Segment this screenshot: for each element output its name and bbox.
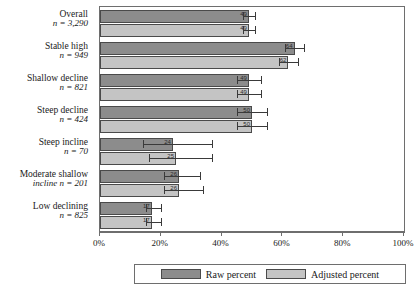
error-bar-cap-high (161, 218, 162, 226)
error-bar-cap-high (200, 172, 201, 180)
error-bar-line (243, 30, 255, 31)
legend-label: Adjusted percent (311, 269, 379, 280)
error-bar-cap-low (164, 186, 165, 194)
error-bar-line (164, 190, 204, 191)
category-label-n: n = 825 (0, 211, 88, 220)
category-label-n: n = 70 (0, 147, 88, 156)
x-axis-tick-label: 40% (212, 238, 229, 248)
error-bar-cap-low (285, 44, 286, 52)
legend-item: Adjusted percent (266, 269, 379, 280)
bar-row: 17 (100, 216, 404, 229)
error-bar-line (146, 208, 161, 209)
error-bar-cap-high (161, 204, 162, 212)
error-bar-cap-high (261, 90, 262, 98)
x-axis-tick-label: 0% (93, 238, 105, 248)
error-bar-cap-high (304, 44, 305, 52)
bar-row: 62 (100, 56, 404, 69)
error-bar-cap-low (237, 122, 238, 130)
error-bar-cap-high (267, 108, 268, 116)
error-bar-cap-high (255, 26, 256, 34)
error-bar-cap-low (149, 154, 150, 162)
bar-row: 64 (100, 42, 404, 55)
category-axis-labels: Overalln = 3,290Stable highn = 949Shallo… (0, 6, 94, 232)
bar-raw-percent (100, 10, 249, 23)
error-bar-cap-high (255, 12, 256, 20)
category-label-n: n = 3,290 (0, 19, 88, 28)
bar-row: 17 (100, 202, 404, 215)
error-bar-cap-low (237, 108, 238, 116)
error-bar-line (146, 222, 161, 223)
bar-row: 25 (100, 152, 404, 165)
plot-area: 4949646249495050242526261717 (99, 6, 405, 232)
error-bar-cap-low (146, 218, 147, 226)
bar-row: 24 (100, 138, 404, 151)
error-bar-line (237, 80, 261, 81)
bar-row: 26 (100, 184, 404, 197)
category-label-n: n = 949 (0, 51, 88, 60)
category-label-n: n = 821 (0, 83, 88, 92)
bar-row: 50 (100, 120, 404, 133)
error-bar-cap-high (203, 186, 204, 194)
x-axis: 0%20%40%60%80%100% (99, 232, 405, 233)
x-axis-tick-label: 20% (152, 238, 169, 248)
bar-row: 49 (100, 88, 404, 101)
category-label-n: incline n = 201 (0, 179, 88, 188)
category-label: Moderate shallowincline n = 201 (0, 170, 88, 189)
legend-swatch-raw (161, 269, 201, 279)
bar-raw-percent (100, 106, 252, 119)
error-bar-cap-low (243, 12, 244, 20)
category-label: Steep declinen = 424 (0, 106, 88, 125)
error-bar-line (279, 62, 297, 63)
bar-row: 50 (100, 106, 404, 119)
error-bar-cap-low (143, 140, 144, 148)
bar-raw-percent (100, 74, 249, 87)
bar-row: 49 (100, 74, 404, 87)
x-axis-tick-label: 100% (393, 238, 414, 248)
error-bar-cap-low (146, 204, 147, 212)
category-label: Overalln = 3,290 (0, 10, 88, 29)
error-bar-cap-high (261, 76, 262, 84)
bar-raw-percent (100, 42, 295, 55)
error-bar-line (164, 176, 200, 177)
bar-row: 26 (100, 170, 404, 183)
bar-row: 49 (100, 10, 404, 23)
x-axis-tick (99, 232, 100, 236)
error-bar-line (237, 112, 267, 113)
error-bar-cap-high (267, 122, 268, 130)
bar-row: 49 (100, 24, 404, 37)
category-label: Shallow declinen = 821 (0, 74, 88, 93)
legend-swatch-adjusted (266, 269, 306, 279)
error-bar-line (285, 48, 303, 49)
chart-legend: Raw percentAdjusted percent (134, 264, 406, 284)
category-label: Low decliningn = 825 (0, 202, 88, 221)
category-label: Steep inclinen = 70 (0, 138, 88, 157)
error-bar-line (149, 158, 213, 159)
category-label-n: n = 424 (0, 115, 88, 124)
error-bar-cap-low (164, 172, 165, 180)
legend-label: Raw percent (206, 269, 256, 280)
bar-adjusted-percent (100, 88, 249, 101)
category-label: Stable highn = 949 (0, 42, 88, 61)
legend-item: Raw percent (161, 269, 256, 280)
error-bar-line (237, 94, 261, 95)
error-bar-line (143, 144, 213, 145)
error-bar-cap-low (237, 76, 238, 84)
error-bar-cap-low (243, 26, 244, 34)
error-bar-cap-high (212, 154, 213, 162)
error-bar-cap-high (298, 58, 299, 66)
x-axis-tick (221, 232, 222, 236)
x-axis-tick (160, 232, 161, 236)
error-bar-cap-low (279, 58, 280, 66)
x-axis-tick (342, 232, 343, 236)
error-bar-line (237, 126, 267, 127)
x-axis-tick-label: 80% (334, 238, 351, 248)
x-axis-tick-label: 60% (273, 238, 290, 248)
bar-adjusted-percent (100, 120, 252, 133)
error-bar-line (243, 16, 255, 17)
error-bar-cap-low (237, 90, 238, 98)
x-axis-tick (281, 232, 282, 236)
bar-adjusted-percent (100, 56, 288, 69)
bar-adjusted-percent (100, 24, 249, 37)
x-axis-tick (403, 232, 404, 236)
